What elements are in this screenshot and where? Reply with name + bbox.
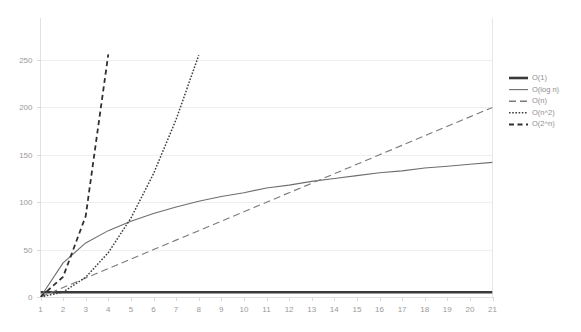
- x-tick-label: 18: [420, 305, 429, 314]
- x-tick-label: 10: [239, 305, 248, 314]
- legend-item: O(n): [509, 96, 548, 105]
- x-tick-label: 9: [219, 305, 224, 314]
- series-line-ologn: [41, 162, 493, 297]
- legend-item: O(1): [509, 73, 548, 82]
- x-tick-label: 16: [375, 305, 384, 314]
- y-tick-label: 0: [28, 293, 33, 302]
- x-tick-label: 19: [443, 305, 452, 314]
- x-tick-label: 17: [398, 305, 407, 314]
- legend-label: O(log n): [532, 85, 560, 94]
- x-tick-label: 15: [352, 305, 361, 314]
- x-tick-label: 7: [174, 305, 179, 314]
- legend-label: O(1): [532, 73, 548, 82]
- series-line-o2n: [41, 54, 109, 297]
- x-tick-label: 2: [61, 305, 66, 314]
- y-tick-label: 150: [19, 151, 33, 160]
- chart-canvas: 050100150200250 123456789101112131415161…: [0, 0, 581, 332]
- y-tick-label: 100: [19, 198, 33, 207]
- x-tick-label: 20: [465, 305, 474, 314]
- legend-item: O(log n): [509, 85, 560, 94]
- x-tick-label: 5: [129, 305, 134, 314]
- x-tick-label: 13: [307, 305, 316, 314]
- series-clip-group: [41, 54, 493, 297]
- chart-legend: O(1)O(log n)O(n)O(n^2)O(2^n): [509, 73, 560, 128]
- axes: [41, 18, 493, 298]
- legend-label: O(n^2): [532, 108, 555, 117]
- x-tick-label: 6: [151, 305, 156, 314]
- x-tick-label: 14: [330, 305, 339, 314]
- complexity-chart: 050100150200250 123456789101112131415161…: [0, 0, 581, 332]
- y-tick-label: 250: [19, 56, 33, 65]
- x-tick-label: 4: [106, 305, 111, 314]
- x-tick-label: 8: [196, 305, 201, 314]
- x-tick-label: 11: [262, 305, 271, 314]
- y-tick-label: 50: [24, 246, 33, 255]
- gridlines: [41, 61, 493, 298]
- x-tick-label: 3: [83, 305, 88, 314]
- series-line-on2: [41, 55, 199, 297]
- legend-label: O(2^n): [532, 119, 555, 128]
- legend-item: O(2^n): [509, 119, 555, 128]
- x-tick-label: 21: [488, 305, 497, 314]
- x-tick-label: 1: [38, 305, 43, 314]
- y-axis-tick-labels: 050100150200250: [19, 56, 40, 302]
- data-series: [41, 54, 493, 297]
- y-tick-label: 200: [19, 103, 33, 112]
- legend-item: O(n^2): [509, 108, 555, 117]
- x-tick-label: 12: [285, 305, 294, 314]
- x-axis-tick-labels: 123456789101112131415161718192021: [38, 297, 497, 314]
- legend-label: O(n): [532, 96, 548, 105]
